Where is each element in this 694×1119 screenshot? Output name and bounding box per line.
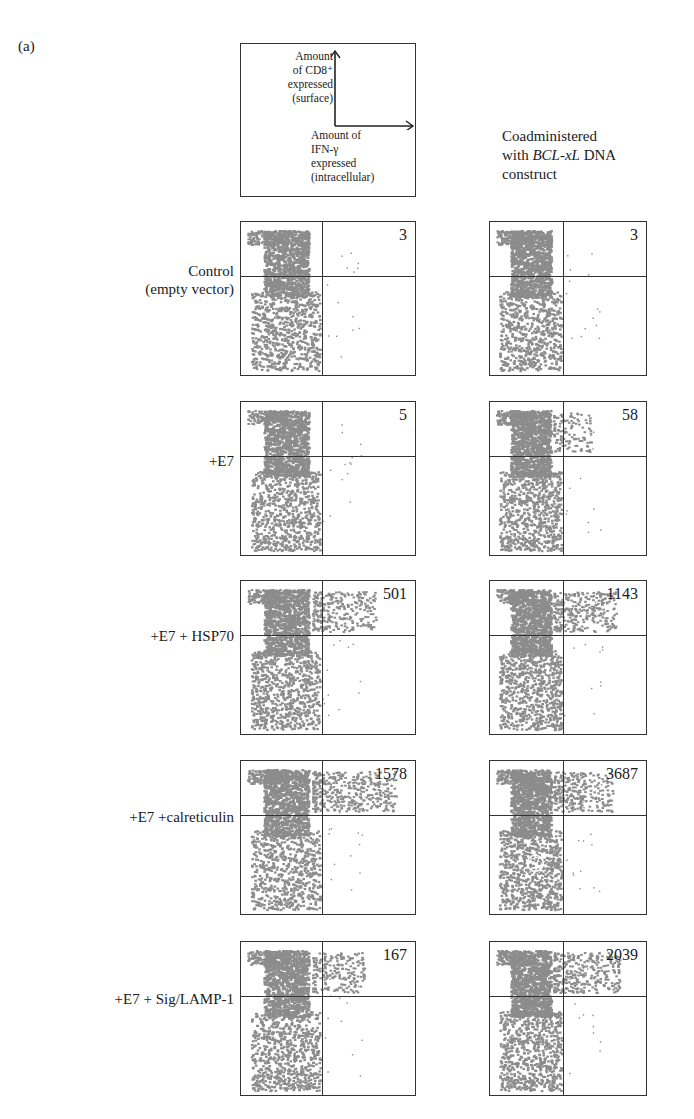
scatter-dots — [490, 942, 647, 1096]
flow-plot-right-row-2: 58 — [489, 401, 647, 556]
quadrant-divider-horizontal — [241, 635, 415, 636]
scatter-dots — [490, 222, 647, 376]
scatter-dots — [241, 222, 416, 376]
flow-plot-left-row-5: 167 — [240, 941, 416, 1096]
row-label-control: Control (empty vector) — [145, 262, 234, 298]
quadrant-divider-vertical — [322, 942, 323, 1095]
quadrant-divider-horizontal — [241, 815, 415, 816]
quadrant-divider-vertical — [563, 581, 564, 734]
row-label-e7-sig-lamp1: +E7 + Sig/LAMP-1 — [115, 990, 234, 1008]
flow-plot-left-row-1: 3 — [240, 221, 416, 376]
upper-right-count: 2039 — [606, 946, 638, 964]
quadrant-divider-vertical — [322, 581, 323, 734]
column-header: Coadministered with BCL-xL DNA construct — [502, 127, 616, 184]
upper-right-count: 167 — [383, 946, 407, 964]
upper-right-count: 3687 — [606, 765, 638, 783]
quadrant-divider-horizontal — [241, 456, 415, 457]
quadrant-divider-horizontal — [490, 635, 646, 636]
row-label-e7-hsp70: +E7 + HSP70 — [150, 627, 234, 645]
quadrant-divider-vertical — [563, 761, 564, 914]
quadrant-divider-horizontal — [490, 815, 646, 816]
axis-legend-box: Amount of CD8⁺ expressed (surface) Amoun… — [240, 43, 416, 197]
x-axis-legend: Amount of IFN-γ expressed (intracellular… — [311, 128, 374, 184]
row-label-e7: +E7 — [209, 452, 234, 470]
scatter-dots — [241, 402, 416, 556]
scatter-dots — [241, 581, 416, 735]
quadrant-divider-vertical — [563, 942, 564, 1095]
panel-label: (a) — [18, 38, 35, 55]
quadrant-divider-vertical — [322, 402, 323, 555]
quadrant-divider-vertical — [563, 402, 564, 555]
row-label-e7-calreticulin: +E7 +calreticulin — [129, 808, 234, 826]
scatter-dots — [241, 761, 416, 915]
quadrant-divider-vertical — [322, 222, 323, 375]
quadrant-divider-horizontal — [241, 996, 415, 997]
flow-plot-left-row-2: 5 — [240, 401, 416, 556]
quadrant-divider-horizontal — [490, 276, 646, 277]
flow-plot-left-row-3: 501 — [240, 580, 416, 735]
flow-plot-right-row-1: 3 — [489, 221, 647, 376]
quadrant-divider-vertical — [322, 761, 323, 914]
flow-plot-right-row-4: 3687 — [489, 760, 647, 915]
scatter-dots — [490, 761, 647, 915]
upper-right-count: 5 — [399, 406, 407, 424]
quadrant-divider-vertical — [563, 222, 564, 375]
flow-plot-right-row-3: 1143 — [489, 580, 647, 735]
quadrant-divider-horizontal — [490, 996, 646, 997]
upper-right-count: 501 — [383, 585, 407, 603]
axes-arrows-icon — [331, 50, 415, 130]
scatter-dots — [241, 942, 416, 1096]
upper-right-count: 3 — [630, 226, 638, 244]
quadrant-divider-horizontal — [241, 276, 415, 277]
upper-right-count: 1143 — [607, 585, 638, 603]
scatter-dots — [490, 402, 647, 556]
quadrant-divider-horizontal — [490, 456, 646, 457]
y-axis-legend: Amount of CD8⁺ expressed (surface) — [241, 49, 333, 105]
upper-right-count: 58 — [622, 406, 638, 424]
flow-plot-right-row-5: 2039 — [489, 941, 647, 1096]
scatter-dots — [490, 581, 647, 735]
upper-right-count: 1578 — [375, 765, 407, 783]
flow-plot-left-row-4: 1578 — [240, 760, 416, 915]
upper-right-count: 3 — [399, 226, 407, 244]
